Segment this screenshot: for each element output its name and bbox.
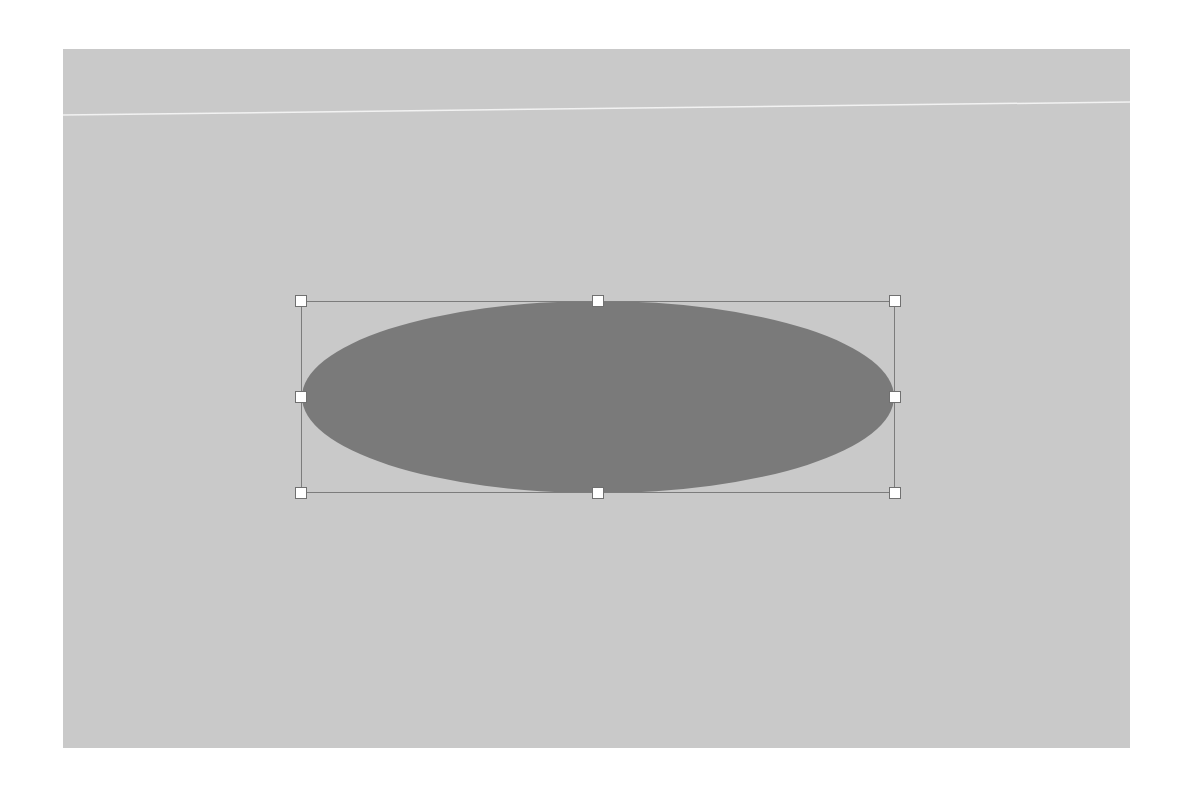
ellipse-shape[interactable] (301, 301, 895, 493)
resize-handle-top-left[interactable] (295, 295, 307, 307)
resize-handle-top-center[interactable] (592, 295, 604, 307)
resize-handle-top-right[interactable] (889, 295, 901, 307)
selected-ellipse-group[interactable] (301, 301, 895, 493)
drawing-canvas[interactable] (63, 49, 1130, 748)
resize-handle-bottom-left[interactable] (295, 487, 307, 499)
resize-handle-bottom-right[interactable] (889, 487, 901, 499)
resize-handle-middle-left[interactable] (295, 391, 307, 403)
resize-handle-bottom-center[interactable] (592, 487, 604, 499)
resize-handle-middle-right[interactable] (889, 391, 901, 403)
